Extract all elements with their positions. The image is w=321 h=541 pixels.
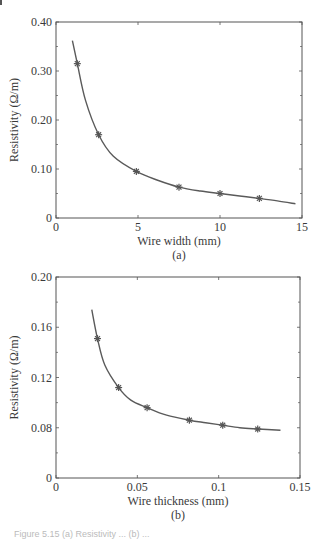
data-point-asterisk-icon bbox=[219, 422, 226, 429]
x-tick-label: 0.05 bbox=[127, 480, 148, 494]
figure-caption: Figure 5.15 (a) Resistivity ... (b) ... bbox=[14, 529, 150, 539]
data-point-asterisk-icon bbox=[144, 404, 151, 411]
data-point-asterisk-icon bbox=[186, 417, 193, 424]
x-tick-label: 0.1 bbox=[211, 480, 226, 494]
fit-curve bbox=[92, 310, 281, 431]
y-axis-label: Resistivity (Ω/m) bbox=[7, 336, 21, 420]
plot-frame bbox=[56, 277, 300, 478]
x-tick-label: 0 bbox=[53, 480, 59, 494]
y-tick-label: 0 bbox=[46, 471, 52, 485]
data-point-asterisk-icon bbox=[94, 335, 101, 342]
y-tick-label: 0.12 bbox=[31, 371, 52, 385]
data-point-asterisk-icon bbox=[254, 426, 261, 433]
chart-b: 00.050.10.1500.080.120.160.20Wire thickn… bbox=[0, 0, 321, 541]
panel-label: (b) bbox=[171, 508, 185, 522]
x-tick-label: 0.15 bbox=[290, 480, 311, 494]
x-axis-label: Wire thickness (mm) bbox=[128, 494, 229, 508]
y-tick-label: 0.16 bbox=[31, 320, 52, 334]
y-tick-label: 0.20 bbox=[31, 270, 52, 284]
y-tick-label: 0.08 bbox=[31, 421, 52, 435]
